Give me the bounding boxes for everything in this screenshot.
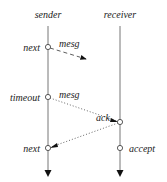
sender-lifeline-arrow-icon bbox=[45, 170, 52, 177]
mesg-label-1: mesg bbox=[59, 38, 80, 49]
diagram-svg: sender receiver next mesg timeout mesg a… bbox=[0, 0, 167, 182]
timeout-label: timeout bbox=[10, 92, 40, 103]
accept-label: accept bbox=[129, 143, 155, 154]
receiver-lifeline-arrow-icon bbox=[117, 170, 124, 177]
next-event-marker bbox=[45, 44, 50, 49]
sequence-diagram: sender receiver next mesg timeout mesg a… bbox=[0, 0, 167, 182]
next-label: next bbox=[23, 42, 40, 53]
mesg-label-2: mesg bbox=[59, 89, 80, 100]
sender-header: sender bbox=[35, 9, 62, 20]
ack-label: ack bbox=[96, 112, 110, 123]
ack-event-marker bbox=[117, 119, 122, 124]
lost-message-arrow bbox=[50, 48, 86, 59]
timeout-event-marker bbox=[45, 94, 50, 99]
accept-event-marker bbox=[117, 145, 122, 150]
next2-label: next bbox=[23, 143, 40, 154]
ack-arrow bbox=[51, 123, 118, 147]
message-arrowhead-icon bbox=[110, 118, 118, 122]
next2-event-marker bbox=[45, 145, 50, 150]
ack-arrowhead-icon bbox=[50, 143, 58, 148]
receiver-header: receiver bbox=[104, 9, 136, 20]
